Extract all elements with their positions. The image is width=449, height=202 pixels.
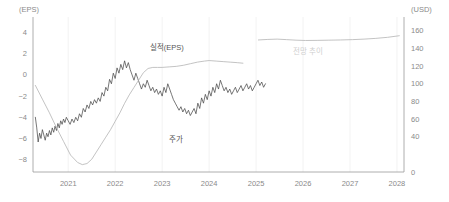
x-tick-2022: 2022	[107, 179, 124, 188]
gridlines	[68, 17, 397, 172]
left-tick--8: −8	[18, 155, 27, 164]
right-tick-40: 40	[411, 132, 419, 141]
left-tick--6: −6	[18, 134, 27, 143]
right-tick-140: 140	[411, 44, 424, 53]
right-tick-0: 0	[411, 168, 415, 177]
x-tick-2025: 2025	[248, 179, 265, 188]
annotations: 실적(EPS)주가전망 추이	[150, 42, 323, 144]
right-tick-120: 120	[411, 62, 424, 71]
axes	[33, 17, 404, 172]
right-tick-80: 80	[411, 97, 419, 106]
series-actual-eps	[35, 61, 243, 165]
series-lines	[35, 36, 399, 165]
x-tick-2028: 2028	[389, 179, 406, 188]
eps-stock-price-chart: 420−2−4−6−816014012010080604002021202220…	[0, 0, 449, 202]
series-forecast-eps	[258, 36, 399, 41]
x-tick-2021: 2021	[60, 179, 77, 188]
right-tick-60: 60	[411, 115, 419, 124]
x-tick-2024: 2024	[201, 179, 218, 188]
right-tick-100: 100	[411, 79, 424, 88]
left-tick-2: 2	[23, 49, 27, 58]
series-actual-price	[35, 61, 265, 142]
chart-canvas: 420−2−4−6−816014012010080604002021202220…	[0, 0, 449, 202]
right-tick-160: 160	[411, 26, 424, 35]
x-tick-2023: 2023	[154, 179, 171, 188]
annotation-2: 전망 추이	[293, 46, 323, 56]
right-axis-unit: (USD)	[411, 5, 432, 14]
left-tick-0: 0	[23, 70, 27, 79]
x-tick-2026: 2026	[295, 179, 312, 188]
left-tick--4: −4	[18, 113, 27, 122]
annotation-1: 주가	[169, 135, 183, 144]
annotation-0: 실적(EPS)	[150, 42, 185, 52]
x-tick-2027: 2027	[342, 179, 359, 188]
left-axis-unit: (EPS)	[19, 5, 40, 14]
tick-labels: 420−2−4−6−816014012010080604002021202220…	[18, 5, 432, 188]
left-tick--2: −2	[18, 92, 27, 101]
left-tick-4: 4	[23, 28, 27, 37]
